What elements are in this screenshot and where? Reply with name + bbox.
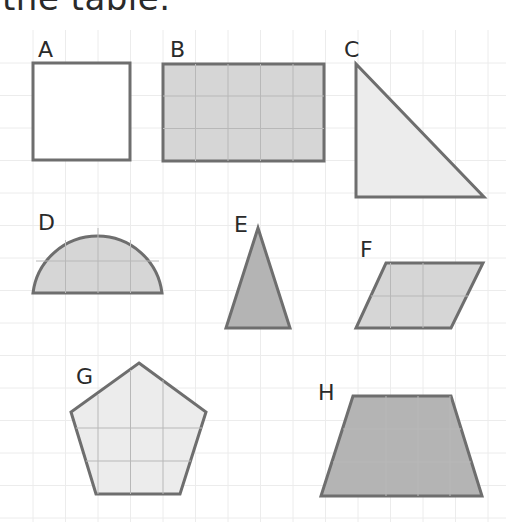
shape-h-trapezium: H	[318, 380, 482, 496]
shape-b-label: B	[170, 37, 185, 62]
shape-b-rectangle: B	[163, 37, 324, 161]
shape-e-label: E	[234, 212, 248, 237]
shape-c-right-triangle: C	[344, 37, 484, 197]
shape-d-label: D	[38, 210, 55, 235]
shape-f-parallelogram: F	[356, 237, 483, 328]
shape-a-square: A	[33, 37, 130, 160]
shape-g-label: G	[76, 364, 93, 389]
shapes-diagram: A B C D E F	[0, 0, 506, 522]
shape-h-label: H	[318, 380, 335, 405]
shape-e-triangle: E	[226, 212, 290, 328]
shape-a-label: A	[38, 37, 53, 62]
shape-g-pentagon: G	[71, 363, 206, 494]
shape-f-label: F	[360, 237, 373, 262]
shape-c-label: C	[344, 37, 359, 62]
